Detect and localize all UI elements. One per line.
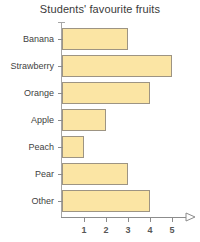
y-axis-tick	[58, 93, 63, 94]
x-axis-tick	[106, 218, 107, 222]
category-label: Banana	[0, 34, 54, 44]
category-label: Peach	[0, 142, 54, 152]
bar	[62, 136, 84, 158]
x-axis-tick-label: 2	[99, 225, 113, 235]
y-axis-tick	[58, 201, 63, 202]
bar-fill	[62, 28, 128, 50]
bar	[62, 28, 128, 50]
y-axis-tick	[58, 174, 63, 175]
y-axis-cap	[58, 22, 65, 23]
bar	[62, 163, 128, 185]
plot-area: BananaStrawberryOrangeApplePeachPearOthe…	[0, 0, 200, 242]
category-label: Other	[0, 196, 54, 206]
y-axis-tick	[58, 120, 63, 121]
bar-fill	[62, 190, 150, 212]
y-axis-tick	[58, 66, 63, 67]
bar-fill	[62, 55, 172, 77]
bar	[62, 82, 150, 104]
x-axis-tick	[150, 218, 151, 222]
bar-chart: Students' favourite fruits BananaStrawbe…	[0, 0, 200, 242]
x-axis-tick-label: 3	[121, 225, 135, 235]
category-label: Orange	[0, 88, 54, 98]
y-axis-tick	[58, 39, 63, 40]
x-axis-tick-label: 4	[143, 225, 157, 235]
y-axis-tick	[58, 147, 63, 148]
x-axis-extension	[172, 217, 186, 218]
bar-fill	[62, 82, 150, 104]
category-label: Pear	[0, 169, 54, 179]
bar	[62, 109, 106, 131]
bar	[62, 190, 150, 212]
bar	[62, 55, 172, 77]
x-axis-tick	[128, 218, 129, 222]
x-axis-tick-label: 5	[165, 225, 179, 235]
bar-fill	[62, 109, 106, 131]
category-label: Apple	[0, 115, 54, 125]
x-axis-tick-label: 1	[77, 225, 91, 235]
x-axis-tick	[172, 218, 173, 222]
bar-fill	[62, 136, 84, 158]
x-axis-tick	[84, 218, 85, 222]
category-label: Strawberry	[0, 61, 54, 71]
bar-fill	[62, 163, 128, 185]
x-axis-line	[61, 217, 172, 218]
